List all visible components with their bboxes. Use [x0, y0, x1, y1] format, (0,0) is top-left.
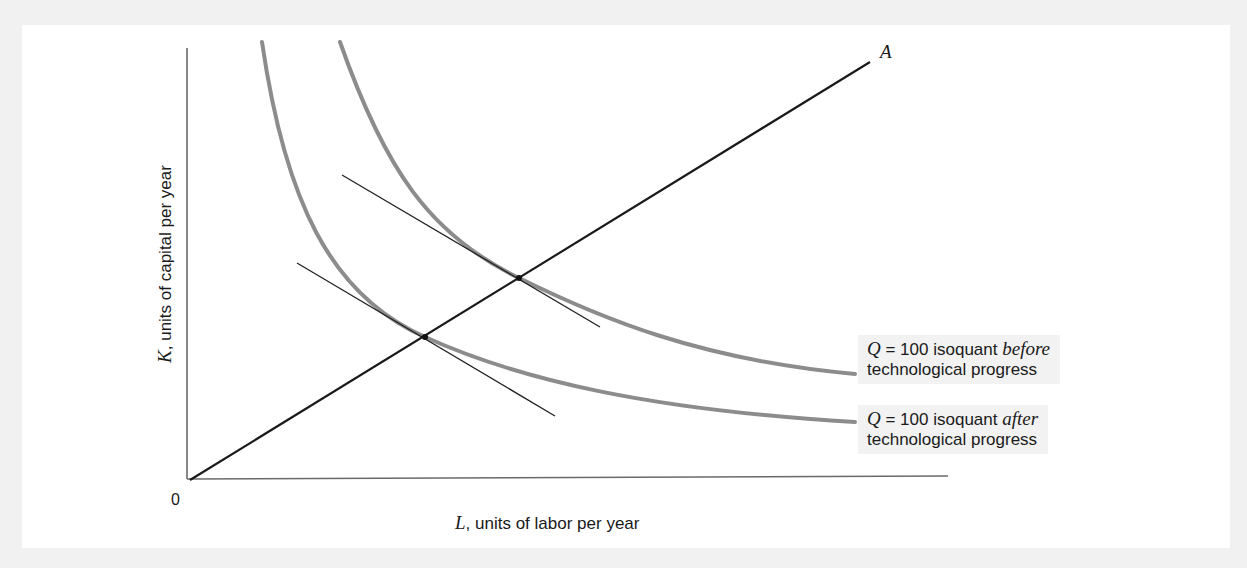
label-text: = 100 isoquant — [881, 410, 1002, 429]
y-axis-var: K — [154, 350, 175, 363]
x-axis — [187, 476, 948, 479]
label-isoquant-after: Q = 100 isoquant after technological pro… — [858, 405, 1048, 454]
isoquant-before — [340, 42, 855, 374]
y-axis-text: , units of capital per year — [156, 165, 175, 350]
q-var: Q — [867, 338, 881, 359]
intersection-before — [516, 275, 522, 281]
x-axis-label: L, units of labor per year — [455, 512, 639, 534]
origin-label: 0 — [171, 491, 180, 509]
isoquant-after — [262, 42, 855, 422]
label-line2: technological progress — [867, 430, 1038, 450]
y-axis-label: K, units of capital per year — [154, 165, 176, 363]
label-emphasis: before — [1002, 338, 1050, 359]
label-isoquant-before: Q = 100 isoquant before technological pr… — [858, 335, 1060, 384]
label-emphasis: after — [1002, 408, 1038, 429]
x-axis-text: , units of labor per year — [466, 514, 640, 533]
label-line2: technological progress — [867, 360, 1050, 380]
x-axis-var: L — [455, 512, 466, 533]
isoquant-diagram — [0, 0, 1247, 568]
intersection-after — [422, 334, 428, 340]
q-var: Q — [867, 408, 881, 429]
label-text: = 100 isoquant — [881, 340, 1002, 359]
ray-label: A — [880, 42, 892, 62]
